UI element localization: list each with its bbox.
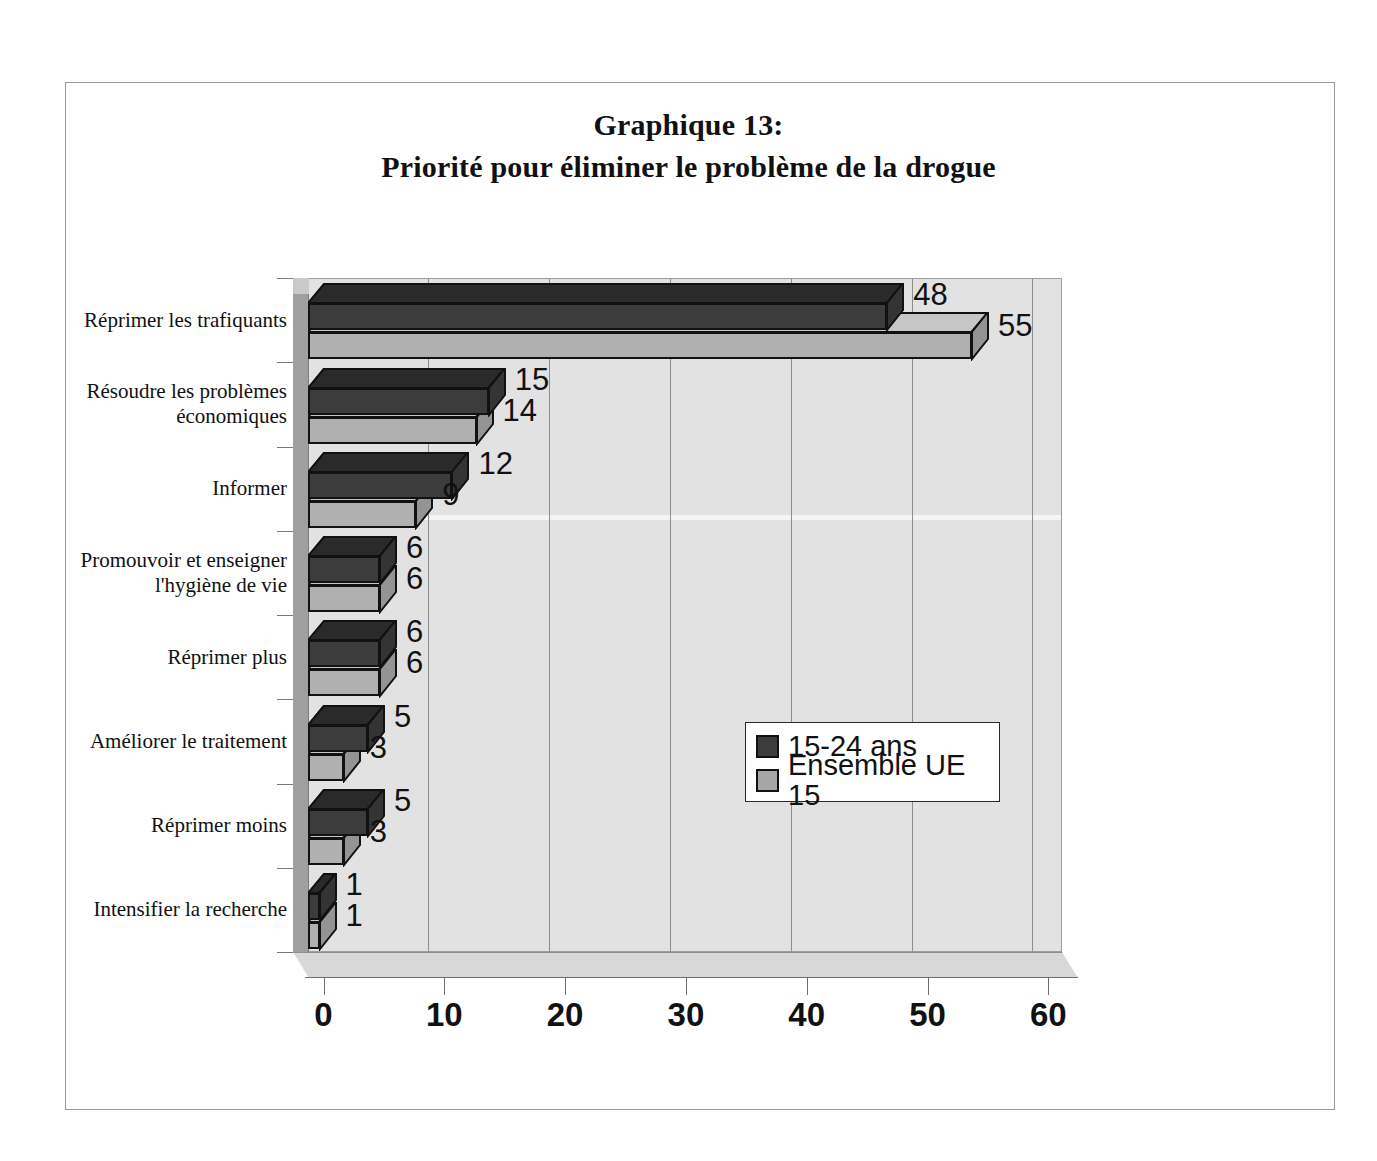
bar-front-face <box>308 585 380 612</box>
x-axis-label: 30 <box>651 996 721 1034</box>
bar-dark <box>308 640 380 667</box>
category-tick <box>277 447 293 448</box>
category-tick <box>277 784 293 785</box>
bar-front-face <box>308 809 368 836</box>
x-axis-tick <box>444 978 445 995</box>
bar-value-label: 55 <box>998 308 1032 344</box>
bar-front-face <box>308 303 888 330</box>
x-axis-tick <box>1048 978 1049 995</box>
x-axis-tick <box>928 978 929 995</box>
x-axis-tick <box>807 978 808 995</box>
bar-value-label: 6 <box>406 561 423 597</box>
bar-front-face <box>308 838 344 865</box>
bar-value-label: 5 <box>394 783 411 819</box>
bar-value-label: 3 <box>370 814 387 850</box>
category-label: Réprimer plus <box>27 645 287 670</box>
bar-light <box>308 922 320 949</box>
bar-value-label: 48 <box>913 277 947 313</box>
bar-value-label: 5 <box>394 699 411 735</box>
category-tick <box>277 699 293 700</box>
bar-front-face <box>308 501 417 528</box>
plot-floor <box>293 952 1078 978</box>
bar-front-face <box>308 640 380 667</box>
category-label: Informer <box>27 476 287 501</box>
bar-light <box>308 332 972 359</box>
category-tick <box>277 531 293 532</box>
bar-front-face <box>308 556 380 583</box>
legend[interactable]: 15-24 ans Ensemble UE 15 <box>745 722 1000 802</box>
bar-top-face <box>308 283 904 305</box>
bar-end-face <box>379 536 397 585</box>
gridline <box>670 279 671 952</box>
bar-value-label: 3 <box>370 730 387 766</box>
bar-front-face <box>308 669 380 696</box>
x-axis-label: 50 <box>893 996 963 1034</box>
bar-front-face <box>308 472 453 499</box>
bar-front-face <box>308 725 368 752</box>
legend-swatch-icon <box>756 769 779 792</box>
plot-sidewall-top <box>293 278 309 294</box>
x-axis-label: 20 <box>530 996 600 1034</box>
bar-dark <box>308 388 489 415</box>
bar-front-face <box>308 893 320 920</box>
x-axis-tick <box>686 978 687 995</box>
bar-value-label: 9 <box>442 477 459 513</box>
bar-end-face <box>379 620 397 669</box>
category-label: Promouvoir et enseignerl'hygiène de vie <box>27 548 287 598</box>
legend-swatch-icon <box>756 735 779 758</box>
category-tick <box>277 278 293 279</box>
bar-front-face <box>308 922 320 949</box>
bar-dark <box>308 809 368 836</box>
bar-front-face <box>308 388 489 415</box>
gridline <box>549 279 550 952</box>
bar-dark <box>308 893 320 920</box>
bar-light <box>308 754 344 781</box>
gridline <box>912 279 913 952</box>
bar-dark <box>308 303 888 330</box>
category-label: Réprimer moins <box>27 813 287 838</box>
legend-label: Ensemble UE 15 <box>788 750 989 810</box>
x-axis-tick <box>324 978 325 995</box>
plot-area: 485515141296666535311 Réprimer les trafi… <box>0 0 1377 1161</box>
bar-value-label: 1 <box>346 898 363 934</box>
gridline <box>791 279 792 952</box>
category-tick <box>277 952 293 953</box>
category-tick <box>277 362 293 363</box>
bar-light <box>308 838 344 865</box>
category-label: Intensifier la recherche <box>27 897 287 922</box>
bar-dark <box>308 725 368 752</box>
x-axis-label: 60 <box>1013 996 1083 1034</box>
bar-end-face <box>886 283 904 332</box>
x-axis-label: 0 <box>289 996 359 1034</box>
bar-light <box>308 417 477 444</box>
x-axis-label: 10 <box>409 996 479 1034</box>
legend-item-1[interactable]: Ensemble UE 15 <box>756 763 989 797</box>
bar-top-face <box>308 452 469 474</box>
bar-front-face <box>308 754 344 781</box>
bar-value-label: 12 <box>478 446 512 482</box>
bar-light <box>308 501 417 528</box>
x-axis-label: 40 <box>772 996 842 1034</box>
x-axis-line <box>305 977 1078 978</box>
category-tick <box>277 868 293 869</box>
category-tick <box>277 615 293 616</box>
bar-value-label: 6 <box>406 645 423 681</box>
bar-dark <box>308 472 453 499</box>
category-label: Résoudre les problèmeséconomiques <box>27 379 287 429</box>
category-label: Réprimer les trafiquants <box>27 308 287 333</box>
category-label: Améliorer le traitement <box>27 729 287 754</box>
bar-light <box>308 585 380 612</box>
bar-end-face <box>971 312 989 361</box>
bar-end-face <box>319 873 337 922</box>
bar-light <box>308 669 380 696</box>
bar-dark <box>308 556 380 583</box>
x-axis-tick <box>565 978 566 995</box>
chart-page: Graphique 13: Priorité pour éliminer le … <box>0 0 1377 1161</box>
bar-front-face <box>308 417 477 444</box>
bar-top-face <box>308 368 505 390</box>
bar-value-label: 14 <box>503 393 537 429</box>
gridline <box>1032 279 1033 952</box>
bar-front-face <box>308 332 972 359</box>
